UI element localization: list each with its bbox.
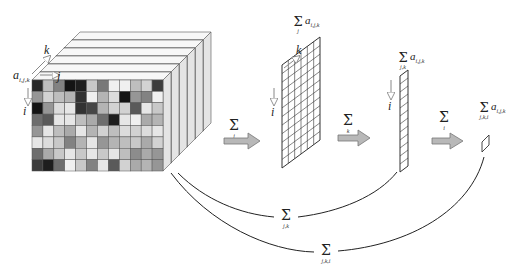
sum-i-arrow-icon bbox=[432, 133, 463, 149]
sum-k-step: Σ k bbox=[338, 112, 370, 146]
sum-k-result: i Σ j,k ai,j,k bbox=[388, 50, 425, 172]
grid-cell bbox=[32, 148, 43, 159]
sum-i-sub: i bbox=[443, 125, 445, 131]
grid-cell bbox=[152, 80, 163, 91]
grid-cell bbox=[54, 126, 65, 137]
sum-i-result: Σ j,k,i ai,j,k bbox=[479, 100, 506, 152]
grid-cell bbox=[141, 103, 152, 114]
grid-cell bbox=[98, 126, 109, 137]
grid-cell bbox=[76, 160, 87, 171]
grid-cell bbox=[152, 148, 163, 159]
input-array-cube: k j i ai,j,k bbox=[13, 32, 211, 171]
grid-cell bbox=[141, 148, 152, 159]
grid-cell bbox=[108, 80, 119, 91]
grid-cell bbox=[108, 126, 119, 137]
grid-cell bbox=[87, 91, 98, 102]
grid-cell bbox=[65, 91, 76, 102]
column-result-elem: ai,j,k bbox=[410, 50, 425, 64]
grid-cell bbox=[98, 148, 109, 159]
frame-top bbox=[72, 32, 211, 40]
grid-cell bbox=[43, 114, 54, 125]
frame-side bbox=[171, 64, 179, 163]
grid-cell bbox=[130, 160, 141, 171]
axis-k-label: k bbox=[44, 43, 50, 57]
grid-cell bbox=[119, 80, 130, 91]
shortcut-jk-curve bbox=[178, 173, 274, 217]
grid-cell bbox=[76, 103, 87, 114]
sum-i-step: Σ i bbox=[432, 109, 463, 149]
grid-cell bbox=[65, 148, 76, 159]
grid-cell bbox=[108, 160, 119, 171]
frame-side bbox=[195, 40, 203, 139]
sum-j-arrow-icon bbox=[224, 133, 260, 149]
grid-cell bbox=[119, 91, 130, 102]
sum-j-result: k i Σ j ai,j,k bbox=[271, 14, 320, 168]
grid-cell bbox=[87, 160, 98, 171]
plane-result-elem: ai,j,k bbox=[305, 14, 320, 28]
shortcut-jk-sigma: Σ bbox=[281, 207, 291, 223]
grid-cell bbox=[119, 148, 130, 159]
grid-cell bbox=[98, 137, 109, 148]
grid-cell bbox=[32, 80, 43, 91]
grid-cell bbox=[76, 148, 87, 159]
shortcut-jki-curve-right bbox=[338, 157, 484, 251]
frame-top bbox=[40, 64, 179, 72]
grid-cell bbox=[65, 80, 76, 91]
grid-cell bbox=[98, 80, 109, 91]
grid-cell bbox=[119, 114, 130, 125]
grid-cell bbox=[119, 126, 130, 137]
grid-cell bbox=[65, 137, 76, 148]
grid-cell bbox=[98, 103, 109, 114]
grid-cell bbox=[108, 137, 119, 148]
frame-top bbox=[56, 48, 195, 56]
grid-cell bbox=[108, 103, 119, 114]
grid-cell bbox=[141, 91, 152, 102]
grid-cell bbox=[76, 137, 87, 148]
grid-cell bbox=[152, 91, 163, 102]
grid-cell bbox=[87, 126, 98, 137]
grid-cell bbox=[152, 114, 163, 125]
sum-j-sigma: Σ bbox=[229, 117, 239, 133]
grid-cell bbox=[43, 137, 54, 148]
grid-cell bbox=[54, 91, 65, 102]
grid-cell bbox=[108, 91, 119, 102]
grid-cell bbox=[130, 114, 141, 125]
column-result-sigma: Σ bbox=[398, 50, 407, 65]
scalar-cell bbox=[482, 135, 489, 152]
grid-cell bbox=[87, 114, 98, 125]
grid-cell bbox=[43, 160, 54, 171]
grid-cell bbox=[54, 160, 65, 171]
grid-cell bbox=[87, 103, 98, 114]
grid-cell bbox=[87, 148, 98, 159]
grid-cell bbox=[98, 114, 109, 125]
grid-cell bbox=[119, 160, 130, 171]
plane-axis-i-label: i bbox=[271, 105, 274, 119]
grid-cell bbox=[130, 80, 141, 91]
grid-cell bbox=[130, 126, 141, 137]
shortcut-jk-sub: j,k bbox=[282, 223, 289, 229]
column-axis-i-label: i bbox=[388, 99, 391, 113]
grid-cell bbox=[65, 160, 76, 171]
grid-cell bbox=[130, 137, 141, 148]
plane-result-sum-sub: j bbox=[296, 28, 299, 34]
sum-j-step: Σ j bbox=[224, 117, 260, 149]
sum-k-arrow-icon bbox=[338, 130, 370, 146]
scalar-result-sum-sub: j,k,i bbox=[479, 114, 489, 120]
grid-cell bbox=[152, 126, 163, 137]
grid-cell bbox=[32, 91, 43, 102]
shortcut-jk-curve-right bbox=[298, 172, 397, 217]
scalar-result-sigma: Σ bbox=[479, 100, 488, 115]
scalar-result-elem: ai,j,k bbox=[491, 100, 506, 114]
shortcut-sum-jki: Σ j,k,i bbox=[171, 157, 484, 264]
plane-result-sigma: Σ bbox=[293, 14, 302, 29]
front-frame-side bbox=[163, 72, 171, 171]
grid-cell bbox=[43, 103, 54, 114]
grid-cell bbox=[54, 103, 65, 114]
grid-cell bbox=[130, 148, 141, 159]
grid-cell bbox=[54, 137, 65, 148]
frame-top bbox=[64, 40, 203, 48]
grid-cell bbox=[32, 126, 43, 137]
grid-cell bbox=[141, 114, 152, 125]
sum-i-sigma: Σ bbox=[439, 109, 449, 125]
front-frame-top bbox=[32, 72, 171, 80]
